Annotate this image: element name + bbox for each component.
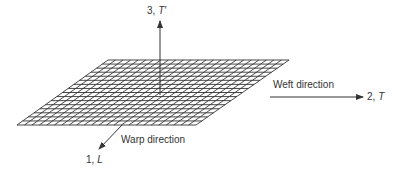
fabric-grid — [17, 60, 289, 125]
warp-direction-label: Warp direction — [121, 135, 185, 145]
warp-direction-arrow — [99, 125, 122, 149]
warp-axis-label: 1, L — [86, 155, 103, 165]
diagram-canvas — [0, 0, 402, 171]
weft-direction-label: Weft direction — [273, 80, 334, 90]
weft-axis-symbol: T — [378, 91, 384, 102]
weft-axis-label: 2, T — [367, 92, 384, 102]
warp-axis-number: 1, — [86, 154, 94, 165]
vertical-axis-number: 3, — [147, 5, 155, 16]
vertical-axis-label: 3, T′ — [147, 6, 166, 16]
weft-axis-number: 2, — [367, 91, 375, 102]
warp-axis-symbol: L — [97, 154, 103, 165]
vertical-axis-symbol: T′ — [158, 5, 166, 16]
